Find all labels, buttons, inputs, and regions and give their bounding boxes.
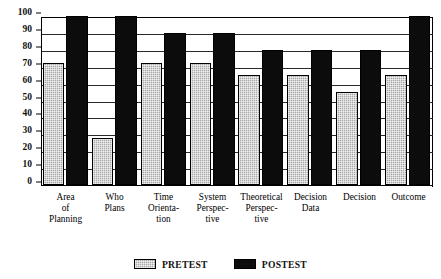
- bar-group: [335, 17, 384, 185]
- x-axis-category-label-line: System: [188, 192, 237, 203]
- x-axis-category-label-line: Outcome: [384, 192, 433, 203]
- bar-pretest: [336, 92, 358, 185]
- x-axis-category-label-line: Plans: [90, 203, 139, 214]
- x-axis-category-label-line: Planning: [41, 214, 90, 225]
- plot-area: [41, 17, 433, 186]
- legend-item-pretest[interactable]: PRETEST: [134, 259, 208, 270]
- x-axis-category-label-line: tive: [188, 214, 237, 225]
- y-axis-tick-label: 40: [23, 110, 33, 120]
- x-axis-category-label: WhoPlans: [90, 192, 139, 214]
- y-axis-tick-label: 10: [23, 160, 33, 170]
- legend-swatch-postest: [234, 259, 256, 269]
- x-axis-category-label-line: Decision: [335, 192, 384, 203]
- bar-pretest: [385, 75, 407, 185]
- y-axis-tick-label: 60: [23, 76, 33, 86]
- bar-group: [42, 17, 91, 185]
- legend-swatch-pretest: [134, 259, 156, 269]
- bar-postest: [213, 33, 235, 185]
- x-axis-category-label-line: of: [41, 203, 90, 214]
- bar-group: [238, 17, 287, 185]
- bar-pretest: [190, 63, 212, 185]
- chart-legend: PRETESTPOSTEST: [0, 255, 441, 273]
- y-axis-tick-label: 80: [23, 42, 33, 52]
- legend-label: POSTEST: [262, 259, 307, 270]
- x-axis-category-label: SystemPerspec-tive: [188, 192, 237, 226]
- x-axis-category-label: Outcome: [384, 192, 433, 203]
- y-axis-tick-label: 100: [18, 8, 32, 18]
- y-axis-tick-mark: [36, 13, 41, 14]
- x-axis-category-label: TheoreticalPerspec-tive: [237, 192, 286, 226]
- legend-label: PRETEST: [162, 259, 208, 270]
- bar-postest: [262, 50, 284, 185]
- y-axis-tick-label: 50: [23, 93, 33, 103]
- x-axis-category-label-line: Time: [139, 192, 188, 203]
- bar-chart-figure: 1009080706050403020100 AreaofPlanningWho…: [0, 0, 441, 279]
- y-axis: 1009080706050403020100: [0, 13, 36, 189]
- y-axis-tick-label: 20: [23, 143, 33, 153]
- bar-postest: [409, 16, 431, 185]
- bar-pretest: [141, 63, 163, 185]
- bar-group: [286, 17, 335, 185]
- x-axis-category-label-line: Decision: [286, 192, 335, 203]
- bar-group: [91, 17, 140, 185]
- x-axis-category-label-line: tion: [139, 214, 188, 225]
- bar-pretest: [92, 138, 114, 185]
- bar-series-container: [42, 17, 433, 185]
- bar-postest: [311, 50, 333, 185]
- bar-postest: [115, 16, 137, 185]
- x-axis-category-labels: AreaofPlanningWhoPlansTimeOrienta-tionSy…: [41, 192, 433, 244]
- x-axis-category-label-line: Perspec-: [188, 203, 237, 214]
- bar-group: [384, 17, 433, 185]
- bar-group: [189, 17, 238, 185]
- x-axis-category-label: DecisionData: [286, 192, 335, 214]
- x-axis-category-label-line: Who: [90, 192, 139, 203]
- bar-pretest: [238, 75, 260, 185]
- bar-postest: [66, 16, 88, 185]
- x-axis-category-label-line: tive: [237, 214, 286, 225]
- x-axis-category-label-line: Orienta-: [139, 203, 188, 214]
- bar-pretest: [43, 63, 65, 185]
- x-axis-category-label: TimeOrienta-tion: [139, 192, 188, 226]
- y-axis-tick-label: 0: [27, 177, 32, 187]
- y-axis-tick-label: 70: [23, 59, 33, 69]
- x-axis-category-label-line: Data: [286, 203, 335, 214]
- x-axis-category-label-line: Theoretical: [237, 192, 286, 203]
- y-axis-tick-label: 30: [23, 127, 33, 137]
- x-axis-category-label: AreaofPlanning: [41, 192, 90, 226]
- x-axis-category-label: Decision: [335, 192, 384, 203]
- bar-pretest: [287, 75, 309, 185]
- legend-item-postest[interactable]: POSTEST: [234, 259, 307, 270]
- y-axis-tick-label: 90: [23, 25, 33, 35]
- bar-postest: [164, 33, 186, 185]
- x-axis-category-label-line: Perspec-: [237, 203, 286, 214]
- x-axis-category-label-line: Area: [41, 192, 90, 203]
- bar-postest: [360, 50, 382, 185]
- bar-group: [140, 17, 189, 185]
